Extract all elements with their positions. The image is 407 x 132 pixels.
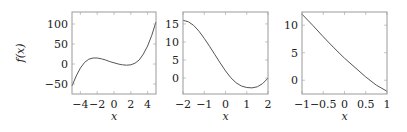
- y-tick-label: 0: [291, 74, 298, 87]
- y-tick-label: 0: [172, 72, 179, 85]
- x-tick-label: 2: [265, 98, 272, 111]
- subplot-2: −2−1012051015x: [165, 12, 272, 123]
- data-line: [183, 20, 268, 88]
- x-axis-label: x: [222, 110, 229, 123]
- x-tick-label: −1: [196, 98, 212, 111]
- subplot-1: −4−2024−50050100xf(x): [14, 12, 156, 123]
- y-tick-label: 100: [47, 18, 68, 31]
- axes-frame: [183, 12, 268, 94]
- x-axis-label: x: [341, 110, 348, 123]
- data-line: [72, 22, 156, 86]
- y-tick-label: 5: [172, 54, 179, 67]
- subplot-3: −1−0.500.510510x: [284, 12, 391, 123]
- x-tick-label: −4: [72, 98, 88, 111]
- chart-figure: −4−2024−50050100xf(x)−2−1012051015x−1−0.…: [0, 0, 407, 132]
- y-tick-label: 50: [54, 38, 68, 51]
- y-tick-label: 10: [165, 36, 179, 49]
- axes-frame: [302, 12, 387, 94]
- x-tick-label: −2: [175, 98, 191, 111]
- y-tick-label: 0: [61, 58, 68, 71]
- y-axis-label: f(x): [14, 44, 27, 64]
- y-tick-label: 15: [165, 18, 179, 31]
- x-tick-label: 0.5: [357, 98, 375, 111]
- y-tick-label: 10: [284, 19, 298, 32]
- x-tick-label: −2: [89, 98, 105, 111]
- y-tick-label: −50: [45, 78, 68, 91]
- data-line: [302, 14, 387, 91]
- y-tick-label: 5: [291, 47, 298, 60]
- x-tick-label: 2: [127, 98, 134, 111]
- x-tick-label: −0.5: [310, 98, 337, 111]
- x-tick-label: 4: [144, 98, 151, 111]
- x-tick-label: 1: [384, 98, 391, 111]
- x-tick-label: 1: [243, 98, 250, 111]
- x-tick-label: −1: [294, 98, 310, 111]
- x-axis-label: x: [111, 110, 118, 123]
